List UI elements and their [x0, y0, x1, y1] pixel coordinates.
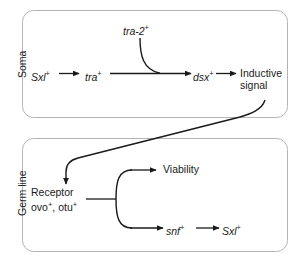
- node-tra-2: tra-2+: [123, 22, 149, 37]
- node-sxl-soma-text: Sxl: [31, 71, 46, 83]
- node-dsx-text: dsx: [193, 71, 209, 83]
- node-sxl-germline-text: Sxl: [222, 225, 237, 237]
- node-receptor-title: Receptor: [31, 186, 74, 198]
- node-snf: snf+: [166, 222, 184, 237]
- node-tra-2-superscript: +: [145, 23, 149, 32]
- pathway-diagram: Soma Germ line Sxl+ tra+ tra-2+ dsx+ Ind…: [0, 0, 300, 267]
- node-viability: Viability: [163, 164, 199, 176]
- node-sxl-germline: Sxl+: [222, 222, 241, 237]
- gene-ovo: ovo: [31, 201, 48, 213]
- node-dsx-superscript: +: [209, 69, 213, 78]
- node-tra: tra+: [85, 68, 102, 83]
- node-dsx: dsx+: [193, 68, 214, 83]
- node-tra-superscript: +: [97, 69, 101, 78]
- gene-otu-superscript: +: [73, 200, 77, 209]
- node-snf-superscript: +: [180, 223, 184, 232]
- gene-otu: otu: [58, 201, 73, 213]
- diagram-canvas: [0, 0, 300, 267]
- node-receptor: Receptor ovo+, otu+: [31, 187, 91, 214]
- compartment-label-soma: Soma: [16, 51, 28, 78]
- node-inductive-signal-line1: Inductive: [240, 67, 282, 79]
- node-inductive-signal: Inductive signal: [240, 68, 294, 91]
- node-receptor-genes: ovo+, otu+: [31, 201, 77, 213]
- node-inductive-signal-line2: signal: [240, 79, 267, 91]
- edge-tra2-to-dsx: [140, 38, 160, 73]
- node-snf-text: snf: [166, 225, 180, 237]
- bracket-fork: [116, 170, 132, 228]
- node-sxl-germline-superscript: +: [237, 223, 241, 232]
- node-tra-2-text: tra-2: [123, 25, 145, 37]
- node-sxl-soma-superscript: +: [46, 69, 50, 78]
- compartment-label-germ-line: Germ line: [16, 170, 28, 216]
- soma-compartment-box: [23, 11, 288, 118]
- node-tra-text: tra: [85, 71, 97, 83]
- node-sxl-soma: Sxl+: [31, 68, 50, 83]
